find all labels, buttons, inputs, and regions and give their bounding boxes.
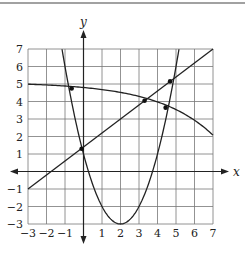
y-axis-label: y — [79, 15, 87, 29]
y-tick-label: 3 — [16, 113, 23, 126]
x-tick-label: 3 — [136, 227, 143, 240]
x-axis-label: x — [233, 165, 240, 179]
x-axis-right-arrow-icon — [221, 169, 229, 175]
y-tick-label: −1 — [7, 183, 23, 196]
y-tick-label: −3 — [7, 218, 23, 231]
intersection-point — [79, 146, 84, 151]
x-tick-label: 2 — [117, 227, 124, 240]
intersection-point — [69, 86, 74, 91]
x-tick-label: 1 — [99, 227, 106, 240]
y-axis-down-arrow-icon — [81, 236, 87, 244]
y-tick-label: 5 — [16, 78, 23, 91]
y-tick-label: 1 — [16, 148, 23, 161]
y-axis-up-arrow-icon — [81, 30, 87, 38]
x-tick-label: −1 — [57, 227, 73, 240]
x-tick-label: 7 — [210, 227, 217, 240]
y-tick-label: 4 — [16, 96, 23, 109]
intersection-point — [168, 79, 173, 84]
x-tick-label: 4 — [154, 227, 161, 240]
intersection-point — [142, 99, 147, 104]
intersection-point — [163, 105, 168, 110]
x-tick-label: −2 — [38, 227, 54, 240]
grid-lines — [28, 49, 213, 224]
tick-labels: −3−2−112345677654321−1−2−3 — [7, 43, 217, 240]
coordinate-plane-chart: −3−2−112345677654321−1−2−3 x y — [0, 0, 245, 253]
x-tick-label: 6 — [191, 227, 198, 240]
y-tick-label: 2 — [16, 131, 23, 144]
x-axis-left-arrow-icon — [10, 169, 18, 175]
x-tick-label: 5 — [173, 227, 180, 240]
y-tick-label: −2 — [7, 201, 23, 214]
y-tick-label: 7 — [16, 43, 23, 56]
y-tick-label: 6 — [16, 61, 23, 74]
